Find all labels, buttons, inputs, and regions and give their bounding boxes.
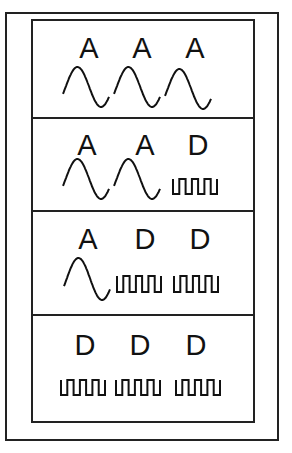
label-row4-col2: D <box>125 331 155 360</box>
label-row3-col1: A <box>73 225 103 254</box>
square-wave-icon <box>172 178 218 195</box>
sine-wave-icon <box>62 157 110 201</box>
square-wave-icon <box>175 379 221 396</box>
label-row1-col2: A <box>127 34 157 63</box>
label-row3-col3: D <box>185 225 215 254</box>
row-divider-1 <box>33 117 253 119</box>
inner-frame: A A A A A D A D D D D D <box>31 19 255 423</box>
sine-wave-icon <box>113 157 161 201</box>
row-divider-3 <box>33 314 253 316</box>
label-row4-col1: D <box>70 331 100 360</box>
row-divider-2 <box>33 210 253 212</box>
label-row4-col3: D <box>181 331 211 360</box>
square-wave-icon <box>116 275 162 293</box>
label-row1-col3: A <box>180 34 210 63</box>
square-wave-icon <box>60 379 106 396</box>
label-row3-col2: D <box>130 225 160 254</box>
square-wave-icon <box>173 275 219 293</box>
sine-wave-icon <box>113 65 161 109</box>
sine-wave-icon <box>63 256 111 302</box>
label-row2-col1: A <box>72 131 102 160</box>
sine-wave-icon <box>164 67 212 111</box>
sine-wave-icon <box>62 65 110 109</box>
label-row1-col1: A <box>74 34 104 63</box>
label-row2-col3: D <box>183 131 213 160</box>
label-row2-col2: A <box>130 131 160 160</box>
square-wave-icon <box>115 379 161 396</box>
